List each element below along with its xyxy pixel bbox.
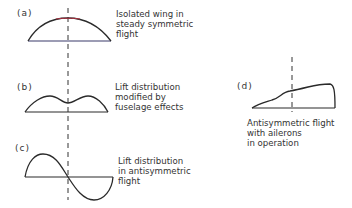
panel-c-caption: Lift distributionin antisymmetricflight xyxy=(118,156,191,186)
curve-d xyxy=(252,84,335,108)
curve-c xyxy=(25,154,113,200)
panel-a-tag: (a) xyxy=(17,8,33,18)
panel-c-tag: (c) xyxy=(15,143,30,153)
curve-a xyxy=(28,18,111,41)
panel-b-tag: (b) xyxy=(17,82,33,92)
curve-b xyxy=(25,96,108,112)
panel-a-caption: Isolated wing insteady symmetricflight xyxy=(116,9,193,39)
panel-d-caption: Antisymmetric flightwith aileronsin oper… xyxy=(247,118,335,148)
panel-b-caption: Lift distributionmodified byfuselage eff… xyxy=(115,82,183,112)
panel-d-tag: (d) xyxy=(237,81,253,91)
